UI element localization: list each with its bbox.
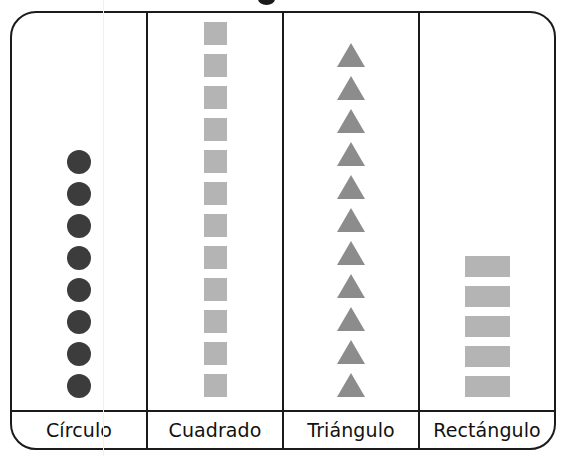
square-icon	[204, 342, 227, 365]
pictograph-column-rectangulo	[418, 13, 554, 410]
pictograph-column-cuadrado	[146, 13, 282, 410]
triangle-icon	[337, 175, 365, 199]
cropped-shape-artifact	[258, 0, 275, 5]
rectangle-icon	[465, 346, 510, 367]
rectangle-icon	[465, 256, 510, 277]
category-label-circulo: Círculo	[12, 412, 146, 448]
pictograph-column-circulo	[12, 13, 146, 410]
square-icon	[204, 182, 227, 205]
pictograph-label-row: Círculo Cuadrado Triángulo Rectángulo	[12, 410, 554, 448]
circle-icon	[67, 182, 91, 206]
triangle-icon	[337, 109, 365, 133]
pictograph-plot-area	[12, 13, 554, 410]
circle-icon	[67, 342, 91, 366]
pictograph-column-triangulo	[282, 13, 418, 410]
circle-icon	[67, 150, 91, 174]
triangle-icon	[337, 307, 365, 331]
square-icon	[204, 310, 227, 333]
rectangle-icon	[465, 376, 510, 397]
triangle-icon	[337, 373, 365, 397]
square-icon	[204, 374, 227, 397]
triangle-icon	[337, 274, 365, 298]
square-icon	[204, 150, 227, 173]
pictograph-chart: Círculo Cuadrado Triángulo Rectángulo	[10, 11, 556, 450]
triangle-icon	[337, 208, 365, 232]
circle-icon	[67, 310, 91, 334]
circle-icon	[67, 278, 91, 302]
square-icon	[204, 54, 227, 77]
triangle-icon	[337, 76, 365, 100]
circle-icon	[67, 246, 91, 270]
category-label-cuadrado: Cuadrado	[146, 412, 282, 448]
circle-icon	[67, 214, 91, 238]
triangle-icon	[337, 43, 365, 67]
category-label-triangulo: Triángulo	[282, 412, 418, 448]
square-icon	[204, 246, 227, 269]
rectangle-icon	[465, 286, 510, 307]
circle-icon	[67, 374, 91, 398]
triangle-icon	[337, 241, 365, 265]
square-icon	[204, 214, 227, 237]
category-label-rectangulo: Rectángulo	[418, 412, 554, 448]
square-icon	[204, 118, 227, 141]
scan-line-artifact	[103, 0, 104, 456]
triangle-icon	[337, 142, 365, 166]
square-icon	[204, 86, 227, 109]
rectangle-icon	[465, 316, 510, 337]
square-icon	[204, 22, 227, 45]
triangle-icon	[337, 340, 365, 364]
square-icon	[204, 278, 227, 301]
